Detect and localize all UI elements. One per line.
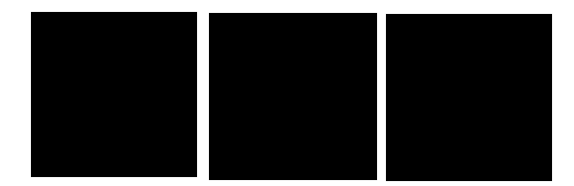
black-image-panel-1 (31, 12, 197, 177)
black-image-panel-2 (209, 13, 377, 180)
black-image-panel-3 (386, 14, 552, 181)
